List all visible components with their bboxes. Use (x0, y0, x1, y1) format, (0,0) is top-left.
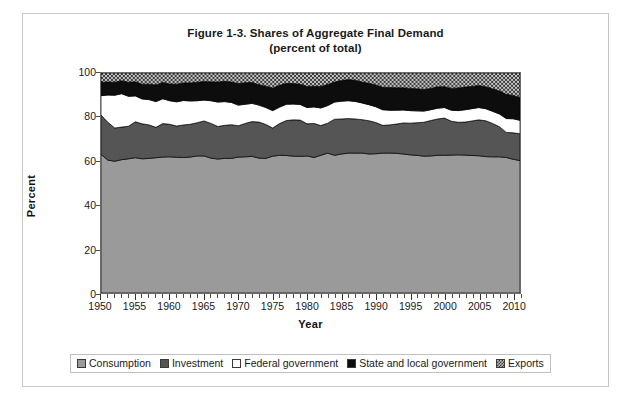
x-axis-tick-label: 1985 (330, 300, 353, 312)
x-axis-minor-tick (300, 294, 301, 298)
x-axis-tick-label: 2005 (468, 300, 491, 312)
x-axis-tick-label: 1955 (123, 300, 146, 312)
x-axis-minor-tick (114, 294, 115, 298)
consumption-swatch-icon (77, 359, 86, 368)
x-axis-minor-tick (493, 294, 494, 298)
exports-swatch-icon (496, 359, 505, 368)
state-and-local-government-swatch-icon (347, 359, 356, 368)
x-axis-tick-label: 1950 (88, 300, 111, 312)
x-axis-minor-tick (521, 294, 522, 298)
x-axis-tick-label: 1965 (192, 300, 215, 312)
investment-swatch-icon (160, 359, 169, 368)
x-axis-minor-tick (431, 294, 432, 298)
x-axis-tick-label: 1995 (399, 300, 422, 312)
y-axis-tick-label: 80 (62, 110, 96, 122)
figure-page: Figure 1-3. Shares of Aggregate Final De… (0, 0, 634, 403)
figure-title-line-2: (percent of total) (22, 41, 609, 56)
x-axis-minor-tick (231, 294, 232, 298)
x-axis-tick-label: 1970 (226, 300, 249, 312)
x-axis-title: Year (100, 318, 521, 330)
x-axis-minor-tick (176, 294, 177, 298)
x-axis-tick-label: 1990 (364, 300, 387, 312)
figure-title-line-1: Figure 1-3. Shares of Aggregate Final De… (22, 26, 609, 41)
x-axis-minor-tick (466, 294, 467, 298)
x-axis-minor-tick (459, 294, 460, 298)
plot-area (100, 72, 521, 294)
x-axis-minor-tick (321, 294, 322, 298)
y-axis-tick-label: 0 (62, 288, 96, 300)
x-axis-tick-labels: 1950195519601965197019751980198519901995… (100, 300, 521, 316)
x-axis-minor-tick (348, 294, 349, 298)
x-axis-minor-tick (148, 294, 149, 298)
legend-item-consumption[interactable]: Consumption (77, 358, 151, 369)
x-axis-minor-tick (417, 294, 418, 298)
x-axis-minor-tick (245, 294, 246, 298)
legend-item-label: Consumption (89, 358, 151, 369)
x-axis-minor-tick (500, 294, 501, 298)
x-axis-minor-tick (190, 294, 191, 298)
x-axis-minor-tick (286, 294, 287, 298)
x-axis-minor-tick (452, 294, 453, 298)
federal-government-swatch-icon (232, 359, 241, 368)
x-axis-tick-label: 1960 (157, 300, 180, 312)
x-axis-minor-tick (128, 294, 129, 298)
y-axis-tick-label: 20 (62, 244, 96, 256)
x-axis-minor-tick (328, 294, 329, 298)
x-axis-minor-tick (362, 294, 363, 298)
x-axis-minor-tick (107, 294, 108, 298)
x-axis-minor-tick (438, 294, 439, 298)
x-axis-minor-tick (197, 294, 198, 298)
x-axis-tick-label: 1975 (261, 300, 284, 312)
legend-item-federal-government[interactable]: Federal government (232, 358, 338, 369)
x-axis-minor-tick (404, 294, 405, 298)
x-axis-minor-tick (424, 294, 425, 298)
x-axis-minor-tick (259, 294, 260, 298)
x-axis-minor-tick (252, 294, 253, 298)
x-axis-minor-tick (141, 294, 142, 298)
y-axis-tick-label: 100 (62, 66, 96, 78)
stacked-area-chart (101, 73, 520, 293)
y-axis-tick-label: 60 (62, 155, 96, 167)
x-axis-minor-tick (486, 294, 487, 298)
x-axis-minor-tick (355, 294, 356, 298)
chart-legend: ConsumptionInvestmentFederal governmentS… (70, 354, 551, 373)
y-axis-tick-labels: 020406080100 (56, 72, 96, 294)
x-axis-minor-tick (314, 294, 315, 298)
legend-item-exports[interactable]: Exports (496, 358, 544, 369)
x-axis-minor-tick (473, 294, 474, 298)
figure-title: Figure 1-3. Shares of Aggregate Final De… (22, 26, 609, 56)
x-axis-minor-tick (279, 294, 280, 298)
legend-item-investment[interactable]: Investment (160, 358, 223, 369)
legend-item-state-and-local-government[interactable]: State and local government (347, 358, 487, 369)
y-axis-tick-label: 40 (62, 199, 96, 211)
x-axis-tick-label: 1980 (295, 300, 318, 312)
y-axis-title: Percent (25, 175, 37, 217)
x-axis-minor-tick (183, 294, 184, 298)
x-axis-minor-tick (507, 294, 508, 298)
plot-wrapper (100, 72, 521, 294)
x-axis-minor-tick (335, 294, 336, 298)
legend-item-label: Exports (508, 358, 544, 369)
area-band-consumption (101, 153, 520, 293)
x-axis-minor-tick (266, 294, 267, 298)
x-axis-minor-tick (224, 294, 225, 298)
y-axis-title-wrapper: Percent (34, 72, 56, 294)
x-axis-tick-label: 2010 (502, 300, 525, 312)
x-axis-minor-tick (162, 294, 163, 298)
x-axis-minor-tick (397, 294, 398, 298)
legend-item-label: State and local government (359, 358, 487, 369)
x-axis-tick-label: 2000 (433, 300, 456, 312)
x-axis-minor-tick (217, 294, 218, 298)
x-axis-minor-tick (293, 294, 294, 298)
x-axis-minor-tick (210, 294, 211, 298)
x-axis-minor-tick (369, 294, 370, 298)
x-axis-minor-tick (155, 294, 156, 298)
x-axis-minor-tick (383, 294, 384, 298)
x-axis-minor-tick (390, 294, 391, 298)
x-axis-minor-tick (121, 294, 122, 298)
legend-item-label: Federal government (244, 358, 338, 369)
legend-item-label: Investment (172, 358, 223, 369)
